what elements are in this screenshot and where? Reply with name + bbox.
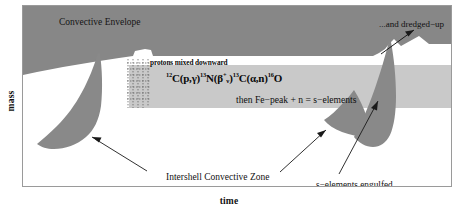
plot-frame: Convective Envelope ...and dredged−up pr… xyxy=(22,5,452,187)
label-protons-mixed-downward: protons mixed downward xyxy=(150,59,228,67)
label-dredged-up: ...and dredged−up xyxy=(379,20,444,29)
label-intershell-convective-zone: Intershell Convective Zone xyxy=(166,173,269,183)
label-reaction-chain: 12C(p,γ)13N(β+ν)13C(α,n)16O xyxy=(166,72,282,84)
reaction-o16: O xyxy=(274,72,282,84)
arrow-intershell-right xyxy=(280,130,326,172)
x-axis-label: time xyxy=(0,196,458,206)
y-axis-label: mass xyxy=(6,81,16,121)
label-fe-peak-s-elements: then Fe−peak + n = s−elements xyxy=(236,95,356,105)
label-convective-envelope: Convective Envelope xyxy=(59,18,141,28)
label-s-elements-engulfed: s−elements engulfed... xyxy=(316,181,400,187)
figure-root: Convective Envelope ...and dredged−up pr… xyxy=(0,0,458,217)
reaction-c13-alpha-n: C(α,n) xyxy=(239,72,268,84)
arrow-intershell-left xyxy=(92,137,147,171)
reaction-n13-beta: N(β xyxy=(206,72,223,84)
reaction-c12-p-gamma: C(p,γ) xyxy=(172,72,200,84)
